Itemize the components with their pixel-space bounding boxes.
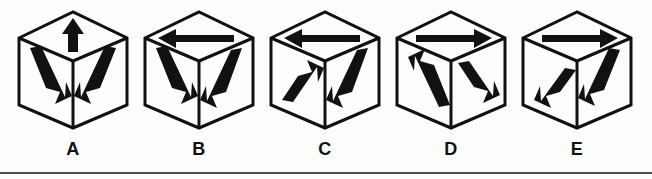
option-label-a: A [8,138,138,160]
arrow-left-e [534,68,576,108]
arrow-right-d [458,61,500,103]
option-label-d: D [386,138,516,160]
answer-option-a[interactable]: A [8,0,138,179]
cube-diagram-e [512,4,642,134]
answer-option-b[interactable]: B [134,0,264,179]
arrow-top-e [542,29,618,48]
answer-option-d[interactable]: D [386,0,516,179]
cube-diagram-b [134,4,264,134]
option-label-c: C [260,138,390,160]
answer-options-figure: A B [0,0,652,179]
arrow-left-c [282,60,324,102]
cube-diagram-d [386,4,516,134]
answer-option-c[interactable]: C [260,0,390,179]
arrow-left-b [156,46,198,104]
option-label-b: B [134,138,264,160]
answer-option-e[interactable]: E [512,0,642,179]
arrow-top-c [284,29,360,48]
arrow-right-a [74,46,116,104]
arrow-top-d [416,29,492,48]
option-label-e: E [512,138,642,160]
arrow-top-a [62,18,84,52]
arrow-top-b [158,29,234,48]
bottom-divider [0,172,652,174]
cube-diagram-a [8,4,138,134]
cube-diagram-c [260,4,390,134]
arrow-left-a [30,46,72,104]
